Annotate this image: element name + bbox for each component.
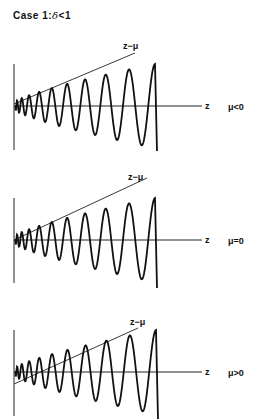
panel-mu-zero: z−μ z μ=0 (14, 172, 244, 288)
panel-mu-negative: z−μ z μ<0 (14, 41, 244, 151)
oscillation-curve (15, 330, 158, 419)
condition-label: μ=0 (228, 236, 244, 246)
line-label: z−μ (130, 317, 145, 327)
oscillation-curve (15, 198, 157, 288)
diagram-canvas: z−μ z μ<0 z−μ z μ=0 z−μ z μ>0 (0, 0, 261, 420)
z-minus-mu-line (14, 53, 135, 104)
condition-label: μ>0 (228, 368, 244, 378)
panel-mu-positive: z−μ z μ>0 (14, 317, 244, 419)
condition-label: μ<0 (228, 102, 244, 112)
axis-label-z: z (205, 235, 210, 245)
axis-label-z: z (205, 367, 210, 377)
line-label: z−μ (123, 41, 138, 51)
oscillation-curve (15, 64, 157, 151)
axis-label-z: z (205, 101, 210, 111)
line-label: z−μ (128, 172, 143, 182)
